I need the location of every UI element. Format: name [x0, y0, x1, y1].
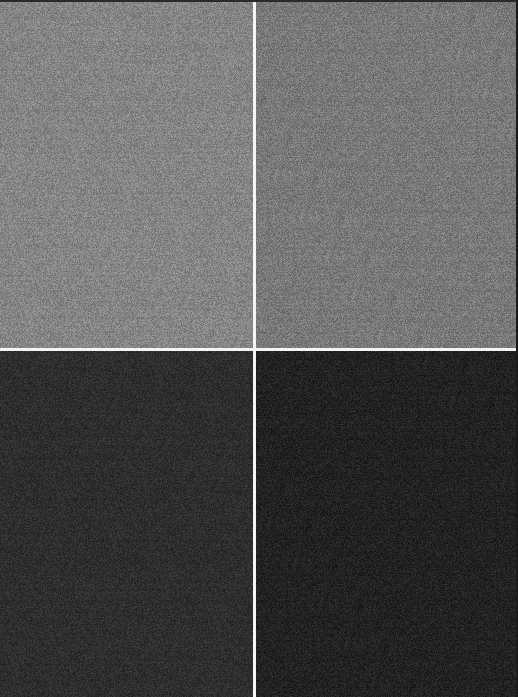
- panel-bottom-right-near-black: [256, 351, 516, 697]
- noise-texture: [256, 351, 516, 697]
- noise-texture: [0, 2, 253, 348]
- panel-top-left-light-gray: [0, 2, 253, 348]
- swatch-grid: [0, 0, 518, 697]
- noise-texture: [0, 351, 253, 697]
- panel-bottom-left-dark-gray: [0, 351, 253, 697]
- panel-top-right-mid-gray: [256, 2, 516, 348]
- noise-texture: [256, 2, 516, 348]
